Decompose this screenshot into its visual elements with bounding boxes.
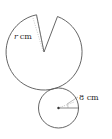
label-leader — [67, 97, 78, 104]
radius-8-label: 8 cm — [79, 93, 99, 102]
radius-8-dashed — [59, 102, 75, 108]
radius-r-label: rcm — [14, 32, 32, 41]
geometry-diagram: rcm 8 cm — [0, 0, 112, 139]
large-sector — [6, 15, 82, 90]
angle-arc — [68, 105, 69, 109]
radius-r-unit: cm — [20, 32, 32, 41]
